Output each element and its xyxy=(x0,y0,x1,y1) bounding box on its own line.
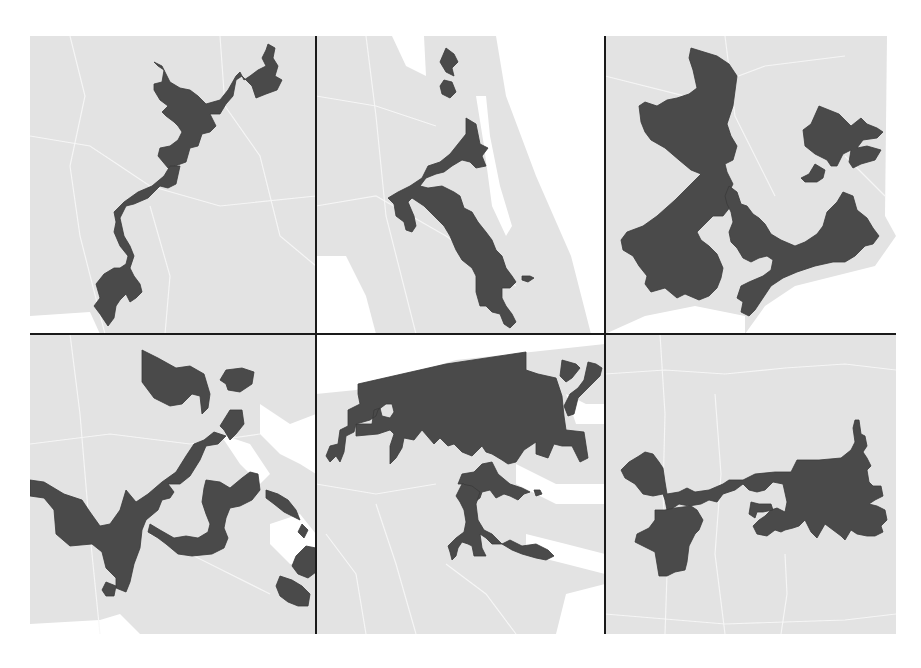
grid-divider-vertical-1 xyxy=(315,36,317,634)
map-panel-5 xyxy=(316,334,605,634)
grid-divider-horizontal xyxy=(30,333,896,335)
district-map-1 xyxy=(30,36,316,334)
district-map-6 xyxy=(605,334,896,634)
gerrymandered-districts-figure xyxy=(0,0,921,668)
map-panel-6 xyxy=(605,334,896,634)
district-map-4 xyxy=(30,334,316,634)
district-map-3 xyxy=(605,36,896,334)
district-map-5 xyxy=(316,334,605,634)
map-panel-2 xyxy=(316,36,605,334)
map-panel-3 xyxy=(605,36,896,334)
district-map-2 xyxy=(316,36,605,334)
grid-divider-vertical-2 xyxy=(604,36,606,634)
map-panel-1 xyxy=(30,36,316,334)
map-panel-4 xyxy=(30,334,316,634)
